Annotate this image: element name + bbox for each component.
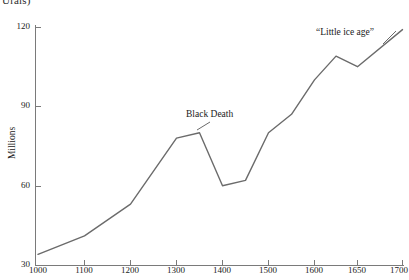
x-tick-marks xyxy=(85,260,403,266)
annotation-leader-black-death xyxy=(197,122,210,130)
annotation-leader-little-ice-age xyxy=(383,31,396,44)
y-tick-marks xyxy=(36,28,42,187)
data-series-line xyxy=(38,30,403,255)
plot-area xyxy=(0,0,409,280)
population-line-chart: Urals) Millions 120 90 60 30 1000 1100 1… xyxy=(0,0,409,280)
